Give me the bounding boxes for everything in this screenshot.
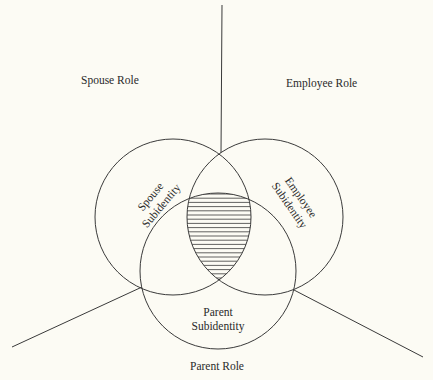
parent-subidentity-label: Parent Subidentity [191, 306, 244, 333]
svg-text:Parent: Parent [203, 306, 233, 318]
spouse-subidentity-label: Spouse Subidentity [129, 172, 184, 230]
employee-subidentity-circle [187, 139, 343, 295]
employee-role-label: Employee Role [286, 77, 357, 90]
shared-core-hatched-region [170, 194, 270, 278]
parent-role-label: Parent Role [190, 360, 244, 372]
svg-text:Subidentity: Subidentity [191, 320, 244, 333]
employee-subidentity-label: Employee Subidentity [269, 172, 322, 231]
divider-employee-parent [294, 290, 423, 357]
spouse-role-label: Spouse Role [81, 74, 139, 87]
divider-spouse-employee [221, 5, 222, 153]
spouse-subidentity-circle [95, 139, 251, 295]
role-subidentity-venn-diagram: Spouse Role Employee Role Parent Role Sp… [0, 0, 433, 380]
divider-spouse-parent [12, 287, 142, 347]
